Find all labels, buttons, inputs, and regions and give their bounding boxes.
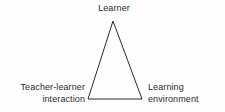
triangle-diagram: Learner Teacher-learner interaction Lear… [0, 0, 225, 112]
node-label-teacher-learner-interaction: Teacher-learner interaction [2, 82, 85, 105]
node-label-learning-environment: Learning environment [148, 82, 222, 105]
node-label-learner: Learner [78, 3, 150, 15]
triangle-outline [88, 21, 142, 99]
